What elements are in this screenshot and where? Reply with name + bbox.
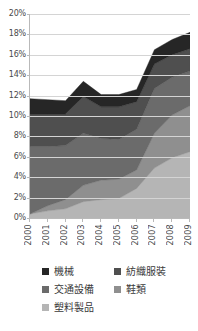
y-tick-mark bbox=[27, 157, 30, 158]
y-tick-mark bbox=[27, 198, 30, 199]
plot-canvas bbox=[29, 14, 190, 219]
y-gridline bbox=[30, 136, 190, 137]
x-tick-mark bbox=[100, 219, 101, 222]
x-tick-mark bbox=[82, 219, 83, 222]
legend-swatch-icon bbox=[42, 268, 49, 275]
y-gridline bbox=[30, 96, 190, 97]
legend-label: 機械 bbox=[54, 266, 74, 277]
x-tick-mark bbox=[47, 219, 48, 222]
y-axis-tick-label: 10% bbox=[0, 112, 26, 120]
legend-label: 交通設備 bbox=[54, 284, 94, 295]
y-tick-mark bbox=[27, 14, 30, 15]
y-gridline bbox=[30, 14, 190, 15]
y-gridline bbox=[30, 34, 190, 35]
y-axis-tick-label: 20% bbox=[0, 10, 26, 18]
x-axis-tick-label: 2003 bbox=[78, 224, 86, 246]
x-axis-tick-label: 2001 bbox=[43, 224, 51, 246]
y-axis-tick-label: 14% bbox=[0, 71, 26, 79]
legend-item[interactable]: 紡織服裝 bbox=[114, 266, 166, 277]
x-tick-mark bbox=[118, 219, 119, 222]
y-tick-mark bbox=[27, 75, 30, 76]
y-gridline bbox=[30, 55, 190, 56]
x-axis-labels: 2000200120022003200420052006200720082009 bbox=[29, 219, 190, 263]
y-axis-tick-label: 6% bbox=[0, 153, 26, 161]
legend-item[interactable]: 鞋類 bbox=[114, 284, 146, 295]
x-axis-tick-label: 2002 bbox=[61, 224, 69, 246]
x-tick-mark bbox=[171, 219, 172, 222]
y-axis-tick-label: 0% bbox=[0, 214, 26, 222]
legend-swatch-icon bbox=[42, 286, 49, 293]
y-tick-mark bbox=[27, 96, 30, 97]
chart-legend: 機械紡織服裝交通設備鞋類塑料製品 bbox=[0, 266, 198, 331]
y-axis-tick-label: 8% bbox=[0, 132, 26, 140]
legend-swatch-icon bbox=[114, 268, 121, 275]
legend-swatch-icon bbox=[114, 286, 121, 293]
y-tick-mark bbox=[27, 55, 30, 56]
y-gridline bbox=[30, 116, 190, 117]
y-tick-mark bbox=[27, 136, 30, 137]
legend-swatch-icon bbox=[42, 304, 49, 311]
legend-item[interactable]: 機械 bbox=[42, 266, 74, 277]
x-axis-tick-label: 2000 bbox=[25, 224, 33, 246]
x-tick-mark bbox=[189, 219, 190, 222]
y-gridline bbox=[30, 75, 190, 76]
y-axis-tick-label: 4% bbox=[0, 173, 26, 181]
legend-item[interactable]: 交通設備 bbox=[42, 284, 94, 295]
x-tick-mark bbox=[153, 219, 154, 222]
legend-label: 紡織服裝 bbox=[126, 266, 166, 277]
y-tick-mark bbox=[27, 34, 30, 35]
y-gridline bbox=[30, 157, 190, 158]
y-axis-tick-label: 16% bbox=[0, 51, 26, 59]
y-tick-mark bbox=[27, 116, 30, 117]
stacked-area-chart: 20%18%16%14%12%10%8%6%4%2%0% 20002001200… bbox=[0, 0, 198, 331]
legend-label: 塑料製品 bbox=[54, 302, 94, 313]
x-axis-tick-label: 2009 bbox=[185, 224, 193, 246]
y-gridline bbox=[30, 177, 190, 178]
y-axis-tick-label: 2% bbox=[0, 194, 26, 202]
x-tick-mark bbox=[65, 219, 66, 222]
x-axis-tick-label: 2006 bbox=[132, 224, 140, 246]
y-axis-tick-label: 12% bbox=[0, 92, 26, 100]
x-axis-tick-label: 2004 bbox=[96, 224, 104, 246]
y-axis-tick-label: 18% bbox=[0, 30, 26, 38]
x-tick-mark bbox=[29, 219, 30, 222]
x-tick-mark bbox=[136, 219, 137, 222]
y-axis-labels: 20%18%16%14%12%10%8%6%4%2%0% bbox=[0, 0, 28, 222]
y-gridline bbox=[30, 198, 190, 199]
x-axis-tick-label: 2008 bbox=[167, 224, 175, 246]
x-axis-tick-label: 2005 bbox=[114, 224, 122, 246]
x-axis-tick-label: 2007 bbox=[149, 224, 157, 246]
plot-area-wrapper: 20%18%16%14%12%10%8%6%4%2%0% 20002001200… bbox=[0, 0, 198, 248]
y-tick-mark bbox=[27, 177, 30, 178]
legend-label: 鞋類 bbox=[126, 284, 146, 295]
legend-item[interactable]: 塑料製品 bbox=[42, 302, 94, 313]
